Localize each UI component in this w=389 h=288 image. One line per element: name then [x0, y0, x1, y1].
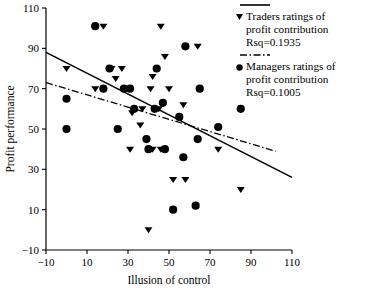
y-tick-label: 70: [28, 83, 40, 95]
data-point-trader: [138, 106, 146, 112]
chart-legend: Traders ratings of profit contribution R…: [232, 2, 389, 101]
x-axis-title: Illusion of control: [127, 274, 210, 286]
legend-traders-line1: Traders ratings of: [246, 10, 328, 23]
data-point-manager: [196, 85, 204, 93]
data-point-manager: [114, 125, 122, 133]
data-point-trader: [165, 86, 173, 92]
data-point-manager: [142, 135, 150, 143]
data-point-trader: [157, 24, 165, 30]
data-point-manager: [169, 206, 177, 214]
x-tick-label: 110: [284, 256, 301, 268]
data-point-manager: [105, 64, 113, 72]
data-point-manager: [179, 153, 187, 161]
data-point-manager: [126, 85, 134, 93]
data-point-trader: [214, 147, 222, 153]
data-point-trader: [112, 76, 120, 82]
data-point-manager: [99, 85, 107, 93]
legend-traders-line2: profit contribution: [246, 23, 328, 36]
x-tick-label: 70: [205, 256, 217, 268]
legend-label-traders: Traders ratings of profit contribution R…: [246, 10, 328, 50]
data-point-trader: [63, 66, 71, 72]
data-point-manager: [181, 42, 189, 50]
y-tick-label: 110: [23, 2, 40, 14]
x-tick-label: 50: [164, 256, 176, 268]
y-tick-label: 90: [28, 42, 40, 54]
data-point-manager: [192, 202, 200, 210]
data-point-trader: [145, 227, 153, 233]
circle-icon: [232, 60, 246, 71]
data-point-trader: [179, 102, 187, 108]
data-point-trader: [91, 86, 99, 92]
data-point-manager: [161, 145, 169, 153]
y-axis-title: Profit performance: [4, 85, 17, 172]
y-tick-label: 50: [28, 123, 40, 135]
legend-managers-rsq: Rsq=0.1005: [246, 86, 335, 99]
data-point-manager: [159, 99, 167, 107]
data-point-trader: [136, 122, 144, 128]
legend-label-managers: Managers ratings of profit contribution …: [246, 60, 335, 100]
legend-traders-rsq: Rsq=0.1935: [246, 36, 328, 49]
data-point-trader: [181, 177, 189, 183]
y-tick-label: −10: [22, 244, 40, 256]
legend-entry-managers: Managers ratings of profit contribution …: [232, 52, 389, 100]
data-point-manager: [62, 95, 70, 103]
data-point-trader: [194, 44, 202, 50]
legend-line-sample-solid: [240, 2, 270, 8]
data-point-trader: [237, 187, 245, 193]
data-point-trader: [147, 86, 155, 92]
triangle-down-icon: [232, 10, 246, 20]
data-point-manager: [62, 125, 70, 133]
data-point-manager: [194, 135, 202, 143]
data-point-manager: [153, 64, 161, 72]
data-point-trader: [118, 66, 126, 72]
data-point-manager: [151, 105, 159, 113]
x-tick-label: 90: [246, 256, 258, 268]
x-tick-label: 30: [123, 256, 135, 268]
data-point-trader: [99, 24, 107, 30]
legend-line-sample-dashdot: [240, 52, 270, 58]
data-point-manager: [237, 105, 245, 113]
data-point-manager: [91, 22, 99, 30]
data-point-trader: [149, 74, 157, 80]
y-tick-label: 10: [28, 204, 40, 216]
legend-entry-traders: Traders ratings of profit contribution R…: [232, 2, 389, 50]
data-point-trader: [169, 177, 177, 183]
data-point-manager: [214, 123, 222, 131]
data-point-manager: [144, 145, 152, 153]
data-point-trader: [126, 147, 134, 153]
data-point-manager: [175, 113, 183, 121]
legend-managers-line2: profit contribution: [246, 73, 335, 86]
legend-managers-line1: Managers ratings of: [246, 60, 335, 73]
data-point-manager: [130, 105, 138, 113]
scatter-plot-figure: −1010305070901101109070503010−10Illusion…: [0, 0, 389, 288]
data-point-trader: [161, 54, 169, 60]
x-tick-label: 10: [82, 256, 94, 268]
x-tick-label: −10: [37, 256, 55, 268]
y-tick-label: 30: [28, 163, 40, 175]
